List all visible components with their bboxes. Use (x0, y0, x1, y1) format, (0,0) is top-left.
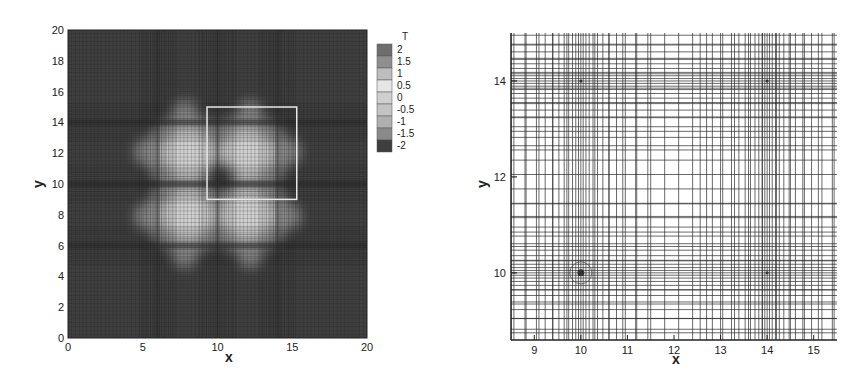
colorbar-tick-label: 0 (397, 92, 403, 103)
y-tick-labels: 02468101214161820 (52, 24, 64, 344)
x-tick-label: 11 (622, 344, 633, 356)
y-tick-label: 12 (494, 171, 506, 183)
colorbar-swatch (377, 56, 392, 68)
colorbar-tick-label: -2 (397, 140, 406, 151)
y-tick-label: 0 (58, 332, 64, 344)
refinement-point (577, 269, 584, 276)
x-tick-label: 10 (575, 344, 587, 356)
y-axis-label: y (30, 180, 46, 188)
mesh-plot: 9101112131415 101214 x y (474, 33, 837, 367)
y-tick-label: 2 (58, 301, 64, 313)
refinement-point (766, 79, 769, 82)
y-tick-label: 20 (52, 24, 64, 36)
y-tick-label: 4 (58, 270, 64, 282)
y-tick-label: 10 (494, 267, 506, 279)
y-tick-label: 14 (52, 116, 64, 128)
x-tick-label: 0 (65, 341, 71, 353)
colorbar-swatch (377, 44, 392, 56)
y-tick-label: 16 (52, 86, 64, 98)
colorbar-swatch (377, 140, 392, 152)
x-axis-label: x (225, 349, 233, 365)
colorbar-tick-label: 1.5 (397, 56, 411, 67)
colorbar-swatch (377, 68, 392, 80)
refinement-point (579, 79, 582, 82)
colorbar-swatch (377, 92, 392, 104)
x-tick-label: 15 (286, 341, 298, 353)
y-tick-label: 12 (52, 147, 64, 159)
x-tick-label: 9 (531, 344, 537, 356)
colorbar-tick-label: -0.5 (397, 104, 415, 115)
x-tick-label: 13 (714, 344, 726, 356)
colorbar: 21.510.50-0.5-1-1.5-2 (377, 44, 415, 152)
x-tick-label: 14 (761, 344, 773, 356)
colorbar-tick-label: 2 (397, 44, 403, 55)
colorbar-swatch (377, 128, 392, 140)
x-tick-labels: 05101520 (65, 341, 373, 353)
colorbar-swatch (377, 104, 392, 116)
y-tick-label: 18 (52, 55, 64, 67)
x-tick-label: 15 (808, 344, 820, 356)
x-tick-label: 20 (361, 341, 373, 353)
contour-plot: 05101520 02468101214161820 x y 21.510.50… (30, 24, 415, 365)
colorbar-swatch (377, 116, 392, 128)
colorbar-tick-label: 1 (397, 68, 403, 79)
colorbar-swatch (377, 80, 392, 92)
refinement-point (766, 271, 769, 274)
colorbar-tick-label: -1 (397, 116, 406, 127)
y-tick-label: 8 (58, 209, 64, 221)
colorbar-title: T (402, 31, 408, 42)
y-axis-label: y (474, 180, 490, 188)
x-tick-label: 10 (211, 341, 223, 353)
y-tick-label: 10 (52, 178, 64, 190)
x-axis-label: x (672, 351, 680, 367)
left-mesh-lines (68, 30, 367, 338)
y-tick-label: 6 (58, 240, 64, 252)
colorbar-tick-label: 0.5 (397, 80, 411, 91)
figure: 05101520 02468101214161820 x y 21.510.50… (0, 0, 867, 383)
y-tick-label: 14 (494, 75, 506, 87)
colorbar-tick-label: -1.5 (397, 128, 415, 139)
x-tick-label: 5 (140, 341, 146, 353)
mesh-background (511, 33, 837, 340)
